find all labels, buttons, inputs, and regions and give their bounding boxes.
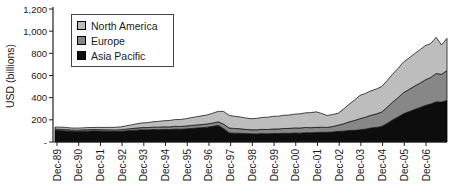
x-tick-label: Dec-97 bbox=[225, 149, 236, 182]
x-tick-label: Dec-01 bbox=[312, 149, 323, 182]
y-tick-label: 600 bbox=[31, 70, 47, 81]
y-axis-title: USD (billions) bbox=[4, 44, 16, 108]
x-tick-label: Dec-93 bbox=[138, 149, 149, 182]
legend: North America Europe Asia Pacific bbox=[71, 14, 174, 67]
asia-pacific-swatch-icon bbox=[77, 51, 86, 60]
legend-item-north-america: North America bbox=[77, 18, 167, 33]
legend-label-europe: Europe bbox=[91, 35, 125, 47]
x-tick-label: Dec-03 bbox=[355, 149, 366, 182]
y-tick-label: 200 bbox=[31, 114, 47, 125]
x-tick-label: Dec-06 bbox=[421, 149, 432, 182]
stacked-area-chart-figure: 1,2001,000800600400200-Dec-89Dec-90Dec-9… bbox=[0, 0, 455, 196]
x-tick-label: Dec-02 bbox=[334, 149, 345, 182]
x-tick-label: Dec-98 bbox=[247, 149, 258, 182]
x-tick-label: Dec-00 bbox=[290, 149, 301, 182]
x-tick-label: Dec-95 bbox=[182, 149, 193, 182]
y-tick-label: 1,000 bbox=[23, 26, 47, 37]
x-tick-label: Dec-04 bbox=[377, 149, 388, 182]
plot-svg: 1,2001,000800600400200-Dec-89Dec-90Dec-9… bbox=[0, 0, 455, 196]
x-tick-label: Dec-92 bbox=[117, 149, 128, 182]
x-tick-label: Dec-05 bbox=[399, 149, 410, 182]
x-tick-label: Dec-90 bbox=[73, 149, 84, 182]
y-tick-label: 1,200 bbox=[23, 4, 47, 15]
x-tick-label: Dec-94 bbox=[160, 149, 171, 182]
y-tick-label: 400 bbox=[31, 92, 47, 103]
legend-item-europe: Europe bbox=[77, 33, 167, 48]
x-tick-label: Dec-99 bbox=[269, 149, 280, 182]
x-tick-label: Dec-91 bbox=[95, 149, 106, 182]
y-tick-label: 800 bbox=[31, 48, 47, 59]
legend-label-north-america: North America bbox=[91, 20, 158, 32]
x-tick-label: Dec-96 bbox=[203, 149, 214, 182]
legend-label-asia-pacific: Asia Pacific bbox=[91, 50, 145, 62]
legend-item-asia-pacific: Asia Pacific bbox=[77, 48, 167, 63]
y-tick-label: - bbox=[44, 137, 47, 148]
europe-swatch-icon bbox=[77, 36, 86, 45]
north-america-swatch-icon bbox=[77, 21, 86, 30]
x-tick-label: Dec-89 bbox=[52, 149, 63, 182]
